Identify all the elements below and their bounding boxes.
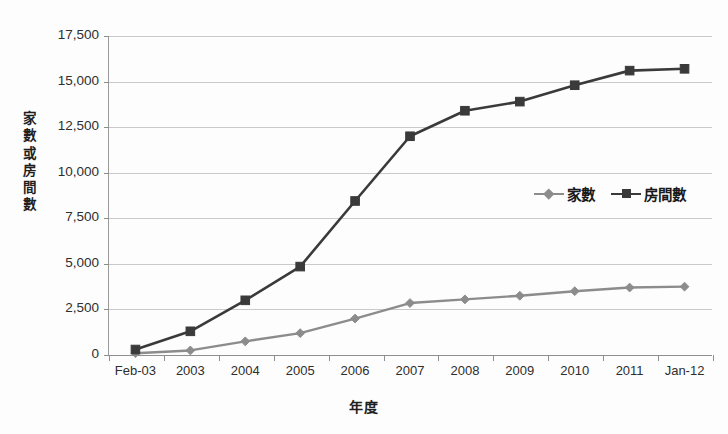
- legend-entry-rooms[interactable]: 房間數: [611, 183, 686, 204]
- data-point-marker: [186, 327, 195, 336]
- legend-swatch-icon: [534, 188, 564, 200]
- data-point-marker: [241, 296, 250, 305]
- data-point-marker: [461, 295, 470, 304]
- data-point-marker: [515, 291, 524, 300]
- chart-container: 02,5005,0007,50010,00012,50015,00017,500…: [0, 0, 728, 434]
- data-point-marker: [296, 262, 305, 271]
- legend-label: 房間數: [644, 183, 686, 204]
- legend-swatch-icon: [611, 188, 641, 200]
- data-point-marker: [461, 106, 470, 115]
- data-point-marker: [625, 283, 634, 292]
- series-layer: [0, 0, 728, 434]
- data-point-marker: [241, 337, 250, 346]
- data-point-marker: [625, 66, 634, 75]
- data-point-marker: [516, 97, 525, 106]
- data-point-marker: [570, 287, 579, 296]
- data-point-marker: [351, 197, 360, 206]
- legend-label: 家數: [567, 183, 595, 204]
- data-point-marker: [680, 282, 689, 291]
- legend-entry-houses[interactable]: 家數: [534, 183, 595, 204]
- data-point-marker: [351, 314, 360, 323]
- data-point-marker: [406, 132, 415, 141]
- data-point-marker: [406, 299, 415, 308]
- data-point-marker: [186, 346, 195, 355]
- chart-legend: 家數房間數: [534, 183, 686, 204]
- data-point-marker: [570, 81, 579, 90]
- data-point-marker: [680, 65, 689, 74]
- series-line-houses: [135, 287, 684, 354]
- data-point-marker: [131, 345, 140, 354]
- data-point-marker: [296, 329, 305, 338]
